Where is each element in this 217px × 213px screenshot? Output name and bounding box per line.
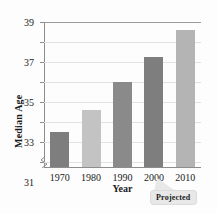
y-tick-label-31: 31 [24,177,34,188]
plot-area: 2527293133353739 19701980199020002010 [44,22,201,168]
y-tick-31: 31 [40,102,44,103]
bar-1980 [82,110,101,167]
x-axis-line [44,167,201,168]
y-axis-line [44,22,45,168]
gridline-39 [44,22,201,23]
bar-1970 [50,132,69,167]
axis-break-icon [40,157,49,170]
y-tick-29: 29 [40,122,44,123]
y-tick-label-33: 33 [24,137,34,148]
y-tick-37: 37 [40,42,44,43]
bar-1990 [113,82,132,167]
y-tick-39: 39 [40,22,44,23]
y-tick-27: 27 [40,142,44,143]
y-axis-title-label: Median Age [13,95,24,148]
projected-callout: Projected [151,191,196,204]
bar-2010 [176,30,195,167]
y-tick-33: 33 [40,82,44,83]
y-tick-25: 25 [40,162,44,163]
y-tick-label-37: 37 [24,57,34,68]
y-tick-label-35: 35 [24,97,34,108]
y-axis-title: Median Age [2,40,16,150]
chart-title-strip [0,0,217,9]
callout-tail-icon [150,178,176,192]
median-age-bar-chart: Median Age 2527293133353739 197019801990… [0,0,217,213]
y-tick-35: 35 [40,62,44,63]
y-tick-label-39: 39 [24,17,34,28]
bar-2000 [144,57,163,167]
